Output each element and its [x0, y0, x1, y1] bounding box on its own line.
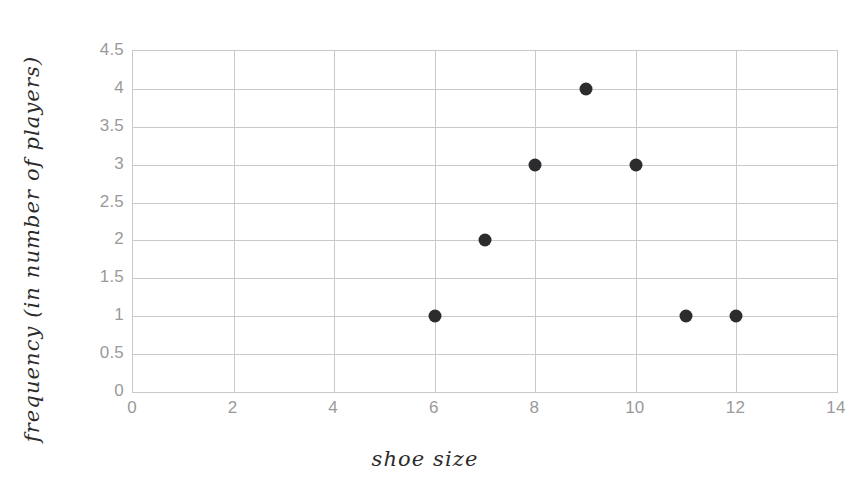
y-axis-title-container: frequency (in number of players)	[0, 0, 64, 497]
gridline-vertical	[234, 51, 235, 392]
gridline-horizontal	[133, 354, 837, 355]
y-tick-label: 4.5	[80, 40, 124, 60]
y-tick-label: 3.5	[80, 116, 124, 136]
gridline-horizontal	[133, 89, 837, 90]
data-point	[629, 158, 642, 171]
gridline-horizontal	[133, 278, 837, 279]
data-point	[680, 310, 693, 323]
y-tick-label: 0.5	[80, 343, 124, 363]
data-point	[730, 310, 743, 323]
data-point	[579, 82, 592, 95]
x-tick-label: 6	[404, 398, 464, 418]
x-tick-label: 0	[102, 398, 162, 418]
x-tick-label: 10	[605, 398, 665, 418]
scatter-chart: frequency (in number of players) 00.511.…	[0, 0, 850, 497]
y-tick-label: 1.5	[80, 267, 124, 287]
gridline-vertical	[535, 51, 536, 392]
x-tick-label: 4	[303, 398, 363, 418]
x-axis-title: shoe size	[0, 447, 850, 471]
gridline-vertical	[736, 51, 737, 392]
gridline-vertical	[435, 51, 436, 392]
y-axis-tick-labels: 00.511.522.533.544.5	[76, 50, 124, 393]
data-point	[428, 310, 441, 323]
y-tick-label: 1	[80, 305, 124, 325]
data-point	[479, 234, 492, 247]
y-tick-label: 4	[80, 78, 124, 98]
x-tick-label: 14	[806, 398, 850, 418]
gridline-horizontal	[133, 127, 837, 128]
x-tick-label: 2	[203, 398, 263, 418]
y-axis-title: frequency (in number of players)	[20, 55, 44, 441]
y-tick-label: 3	[80, 154, 124, 174]
gridline-horizontal	[133, 203, 837, 204]
gridline-horizontal	[133, 165, 837, 166]
y-tick-label: 2	[80, 229, 124, 249]
x-tick-label: 8	[504, 398, 564, 418]
x-tick-label: 12	[705, 398, 765, 418]
data-point	[529, 158, 542, 171]
plot-area	[132, 50, 838, 393]
y-tick-label: 2.5	[80, 192, 124, 212]
x-axis-tick-labels: 02468101214	[132, 398, 838, 428]
gridline-vertical	[636, 51, 637, 392]
gridline-vertical	[334, 51, 335, 392]
